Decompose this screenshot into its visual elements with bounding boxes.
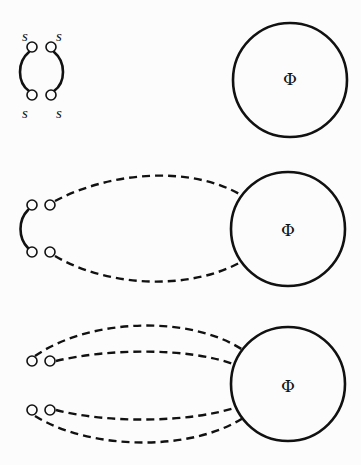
- dashed-link-inner-top: [56, 352, 233, 364]
- panel-3: Φ: [27, 326, 345, 443]
- endpoint-top-right: [45, 200, 55, 210]
- endpoint-bottom-left: [27, 90, 37, 100]
- panel-2: Φ: [21, 172, 346, 286]
- s-label-top-left: s: [22, 28, 28, 44]
- s-label-bottom-left: s: [22, 105, 28, 121]
- diagram-canvas: Φ s s s s Φ Φ: [0, 0, 361, 465]
- endpoint-top-left: [27, 42, 37, 52]
- right-solid-arc: [54, 52, 63, 91]
- panel-1: Φ s s s s: [20, 23, 347, 137]
- phi-label: Φ: [281, 220, 295, 240]
- endpoint-bottom-left: [27, 405, 37, 415]
- endpoint-bottom-right: [45, 405, 55, 415]
- left-solid-arc: [21, 210, 29, 248]
- left-solid-arc: [20, 52, 29, 91]
- endpoint-bottom-right: [45, 247, 55, 257]
- endpoint-top-right: [45, 356, 55, 366]
- endpoint-bottom-right: [46, 90, 56, 100]
- dashed-link-bottom: [55, 256, 241, 282]
- dashed-link-inner-bottom: [56, 408, 234, 420]
- phi-label: Φ: [283, 69, 297, 89]
- endpoint-bottom-left: [27, 247, 37, 257]
- phi-label: Φ: [281, 376, 295, 396]
- s-label-bottom-right: s: [56, 105, 62, 121]
- endpoint-top-left: [27, 200, 37, 210]
- dashed-link-top: [55, 176, 241, 201]
- s-label-top-right: s: [56, 28, 62, 44]
- endpoint-top-right: [46, 42, 56, 52]
- endpoint-top-left: [27, 356, 37, 366]
